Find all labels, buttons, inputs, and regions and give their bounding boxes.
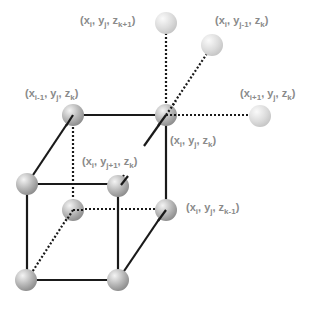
label-center: (xi, yj, zk) xyxy=(170,134,216,146)
label-y-minus: (xi, yj-1, zk) xyxy=(215,14,268,26)
stencil-diagram xyxy=(0,0,313,309)
node-x-plus xyxy=(249,105,271,127)
node-z-plus xyxy=(155,12,177,34)
label-x-plus: (xi+1, yj, zk) xyxy=(240,87,295,99)
node-y-minus xyxy=(201,34,223,56)
node-front-bottom-left xyxy=(15,269,37,291)
label-z-plus: (xi, yj, zk+1) xyxy=(80,14,135,26)
solid-edges xyxy=(27,115,166,280)
node-front-top-left xyxy=(16,173,38,195)
label-z-minus: (xi, yj, zk-1) xyxy=(186,201,239,213)
label-x-minus: (xi-1, yj, zk) xyxy=(25,87,78,99)
label-y-plus: (xi, yj+1, zk) xyxy=(82,155,137,167)
node-front-bottom-right xyxy=(107,269,129,291)
